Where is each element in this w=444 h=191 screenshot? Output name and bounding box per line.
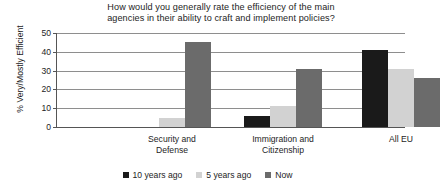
bar-layer xyxy=(56,33,405,128)
bar xyxy=(159,118,185,127)
y-tick-label: 10 xyxy=(41,103,51,113)
category-label-line: Security and xyxy=(122,134,222,145)
legend-label: Now xyxy=(275,170,292,180)
bar xyxy=(185,42,211,127)
y-tick-label: 50 xyxy=(41,28,51,38)
bar xyxy=(244,116,270,127)
y-tick-label: 40 xyxy=(41,47,51,57)
category-label-line: Defense xyxy=(122,145,222,156)
legend-item[interactable]: 5 years ago xyxy=(196,170,251,180)
bar xyxy=(270,106,296,127)
chart-title-line-2: agencies in their ability to craft and i… xyxy=(82,13,360,24)
bar xyxy=(414,78,440,127)
y-axis-label: % Very/Mostly Efficient xyxy=(15,9,25,129)
category-label: Immigration andCitizenship xyxy=(233,134,333,155)
category-label-line: Immigration and xyxy=(233,134,333,145)
y-tick-label: 20 xyxy=(41,84,51,94)
y-tick-label: 0 xyxy=(46,122,51,132)
bar xyxy=(362,50,388,127)
chart-legend: 10 years ago5 years agoNow xyxy=(0,170,415,180)
legend-label: 10 years ago xyxy=(133,170,183,180)
y-tick-label: 30 xyxy=(41,66,51,76)
legend-item[interactable]: Now xyxy=(265,170,292,180)
legend-label: 5 years ago xyxy=(206,170,251,180)
bar xyxy=(388,69,414,127)
category-label-line: Citizenship xyxy=(233,145,333,156)
y-axis-line xyxy=(56,33,57,128)
legend-item[interactable]: 10 years ago xyxy=(123,170,183,180)
legend-swatch-icon xyxy=(265,172,271,178)
bar xyxy=(296,69,322,127)
category-label: Security andDefense xyxy=(122,134,222,155)
legend-swatch-icon xyxy=(196,172,202,178)
category-label: All EU xyxy=(351,134,444,145)
category-label-line: All EU xyxy=(351,134,444,145)
x-axis-line xyxy=(56,127,405,128)
chart-title: How would you generally rate the efficie… xyxy=(82,2,360,24)
plot-area: 01020304050 xyxy=(56,33,405,128)
legend-swatch-icon xyxy=(123,172,129,178)
chart-title-line-1: How would you generally rate the efficie… xyxy=(82,2,360,13)
